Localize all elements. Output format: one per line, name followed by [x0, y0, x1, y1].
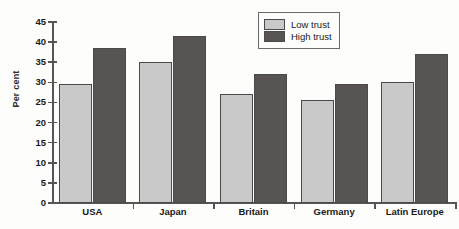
bar-germany-high-trust — [335, 84, 368, 203]
legend-label-high-trust: High trust — [291, 31, 332, 42]
bar-japan-low-trust — [139, 62, 172, 203]
chart-legend: Low trust High trust — [258, 12, 340, 49]
y-axis-tick-label: 5 — [2, 177, 46, 188]
x-axis-label-britain: Britain — [213, 206, 294, 217]
y-axis-tick-label: 10 — [2, 157, 46, 168]
y-axis-tick-label: 40 — [2, 36, 46, 47]
plot-area — [52, 22, 455, 203]
x-axis-label-usa: USA — [52, 206, 133, 217]
y-axis-tick-label: 25 — [2, 96, 46, 107]
bar-latin-europe-low-trust — [381, 82, 414, 203]
bar-japan-high-trust — [173, 36, 206, 203]
y-axis-tick-label: 0 — [2, 197, 46, 208]
legend-swatch-high-trust-icon — [264, 31, 285, 42]
legend-label-low-trust: Low trust — [291, 19, 330, 30]
y-axis-tick-label: 20 — [2, 117, 46, 128]
x-axis-label-japan: Japan — [133, 206, 214, 217]
legend-item-high-trust: High trust — [264, 31, 332, 42]
bar-germany-low-trust — [301, 100, 334, 203]
x-axis-label-germany: Germany — [294, 206, 375, 217]
bar-britain-low-trust — [220, 94, 253, 203]
x-axis-tick — [455, 202, 457, 209]
y-axis-tick-label: 45 — [2, 16, 46, 27]
y-axis-tick-label: 15 — [2, 137, 46, 148]
bar-chart: Per cent 051015202530354045 USAJapanBrit… — [0, 0, 459, 229]
legend-item-low-trust: Low trust — [264, 19, 332, 30]
bar-usa-low-trust — [59, 84, 92, 203]
y-axis-tick-label: 30 — [2, 76, 46, 87]
bar-usa-high-trust — [93, 48, 126, 203]
y-axis-tick-label: 35 — [2, 56, 46, 67]
bar-britain-high-trust — [254, 74, 287, 203]
bar-latin-europe-high-trust — [415, 54, 448, 203]
x-axis-label-latin-europe: Latin Europe — [374, 206, 455, 217]
legend-swatch-low-trust-icon — [264, 19, 285, 30]
